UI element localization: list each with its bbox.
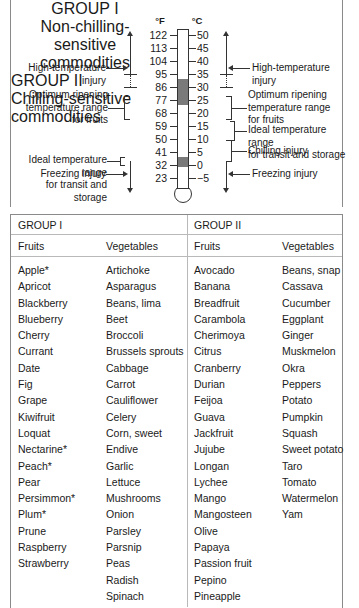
list-item: Muskmelon bbox=[282, 343, 344, 359]
freezing-point-band bbox=[178, 157, 188, 167]
group2-high-temp-lower-crossbar bbox=[220, 87, 233, 88]
group1-high-temp-lower-crossbar bbox=[124, 87, 137, 88]
group2-freezing-leader bbox=[233, 174, 250, 175]
list-item: Jujube bbox=[194, 441, 275, 457]
value-celsius: 5 bbox=[197, 146, 221, 159]
list-item: Asparagus bbox=[106, 278, 187, 294]
list-item: Cassava bbox=[282, 278, 344, 294]
list-item: Grape bbox=[18, 392, 99, 408]
value-fahrenheit: 113 bbox=[137, 42, 167, 55]
thermometer-tube bbox=[177, 29, 189, 189]
unit-label-celsius: °C bbox=[184, 15, 210, 26]
tick-fahrenheit bbox=[170, 139, 177, 140]
group1-freezing-leader-arrow bbox=[123, 171, 128, 177]
tick-celsius bbox=[189, 178, 196, 179]
list-item: Pepino bbox=[194, 572, 275, 588]
group2-optimum-line2: temperature range bbox=[248, 102, 348, 115]
list-item: Papaya bbox=[194, 539, 275, 555]
list-item: Endive bbox=[106, 441, 187, 457]
tick-fahrenheit bbox=[170, 126, 177, 127]
list-item: Pear bbox=[18, 474, 99, 490]
table-header-group1-fruits: Fruits bbox=[11, 235, 99, 257]
group1-high-temp-leader-arrow bbox=[123, 65, 128, 71]
optimum-ripening-band bbox=[178, 79, 188, 105]
tick-fahrenheit bbox=[170, 87, 177, 88]
list-item: Brussels sprouts bbox=[106, 343, 187, 359]
group1-ideal-bracket bbox=[120, 157, 125, 166]
list-item: Plum* bbox=[18, 506, 99, 522]
tick-fahrenheit bbox=[170, 178, 177, 179]
value-celsius: 35 bbox=[197, 68, 221, 81]
list-item: Sweet potato bbox=[282, 441, 344, 457]
value-celsius: 15 bbox=[197, 120, 221, 133]
list-item: Blueberry bbox=[18, 311, 99, 327]
list-item: Persimmon* bbox=[18, 490, 99, 506]
group1-high-temp-leader bbox=[106, 68, 124, 69]
tick-celsius bbox=[189, 87, 196, 88]
group2-high-temperature-injury-label: High-temperature injury bbox=[252, 62, 347, 87]
list-item: Ginger bbox=[282, 327, 344, 343]
list-item: Guava bbox=[194, 409, 275, 425]
list-item: Breadfruit bbox=[194, 295, 275, 311]
list-item: Beet bbox=[106, 311, 187, 327]
list-item: Cabbage bbox=[106, 360, 187, 376]
table-group2-title: GROUP II bbox=[187, 215, 344, 235]
table-group1-title: GROUP I bbox=[11, 215, 187, 235]
group1-freezing-arrow-head bbox=[127, 188, 133, 193]
value-fahrenheit: 32 bbox=[137, 159, 167, 172]
list-item: Citrus bbox=[194, 343, 275, 359]
list-item: Artichoke bbox=[106, 262, 187, 278]
tick-celsius bbox=[189, 165, 196, 166]
group2-high-temp-dotted-line bbox=[226, 75, 227, 87]
group2-ideal-leader bbox=[235, 131, 247, 132]
list-item: Apricot bbox=[18, 278, 99, 294]
list-item: Fig bbox=[18, 376, 99, 392]
list-item: Carambola bbox=[194, 311, 275, 327]
group1-high-temp-line bbox=[130, 36, 131, 74]
value-fahrenheit: 41 bbox=[137, 146, 167, 159]
group1-fruits-list: Apple*ApricotBlackberryBlueberryCherryCu… bbox=[11, 262, 99, 572]
value-celsius: 50 bbox=[197, 29, 221, 42]
list-item: Passion fruit bbox=[194, 555, 275, 571]
group1-optimum-ripening-label: Optimum ripening temperature range for f… bbox=[11, 89, 108, 127]
list-item: Date bbox=[18, 360, 99, 376]
group2-high-temp-leader-arrow bbox=[228, 65, 233, 71]
commodity-table: GROUP I GROUP II Fruits Vegetables Fruit… bbox=[10, 214, 343, 608]
tick-celsius bbox=[189, 35, 196, 36]
value-fahrenheit: 104 bbox=[137, 55, 167, 68]
table-column-header-row: Fruits Vegetables Fruits Vegetables bbox=[11, 235, 342, 257]
list-item: Olive bbox=[194, 523, 275, 539]
temperature-scale: °F °C 122 50 113 45 bbox=[11, 0, 344, 207]
unit-label-fahrenheit: °F bbox=[147, 15, 173, 26]
bulb-neck-mask bbox=[178, 184, 188, 188]
list-item: Jackfruit bbox=[194, 425, 275, 441]
list-item: Lychee bbox=[194, 474, 275, 490]
list-item: Apple* bbox=[18, 262, 99, 278]
table-group-header-row: GROUP I GROUP II bbox=[11, 215, 342, 235]
list-item: Mushrooms bbox=[106, 490, 187, 506]
list-item: Peach* bbox=[18, 458, 99, 474]
group1-optimum-line1: Optimum ripening bbox=[11, 89, 108, 102]
tick-celsius bbox=[189, 152, 196, 153]
list-item: Corn, sweet bbox=[106, 425, 187, 441]
group2-high-temp-line bbox=[226, 36, 227, 74]
list-item: Broccoli bbox=[106, 327, 187, 343]
value-celsius: 10 bbox=[197, 133, 221, 146]
group2-freezing-line bbox=[226, 161, 227, 189]
list-item: Strawberry bbox=[18, 555, 99, 571]
value-fahrenheit: 95 bbox=[137, 68, 167, 81]
list-item: Beans, snap bbox=[282, 262, 344, 278]
list-item: Tomato bbox=[282, 474, 344, 490]
group1-optimum-bracket bbox=[124, 96, 130, 120]
list-item: Cherry bbox=[18, 327, 99, 343]
list-item: Currant bbox=[18, 343, 99, 359]
tick-fahrenheit bbox=[170, 152, 177, 153]
list-item: Prune bbox=[18, 523, 99, 539]
group2-optimum-ripening-label: Optimum ripening temperature range for f… bbox=[248, 89, 348, 127]
list-item: Mango bbox=[194, 490, 275, 506]
list-item: Radish bbox=[106, 572, 187, 588]
tick-celsius bbox=[189, 74, 196, 75]
list-item: Potato bbox=[282, 392, 344, 408]
group2-vegetables-list: Beans, snapCassavaCucumberEggplantGinger… bbox=[275, 262, 344, 523]
list-item: Beans, lima bbox=[106, 295, 187, 311]
